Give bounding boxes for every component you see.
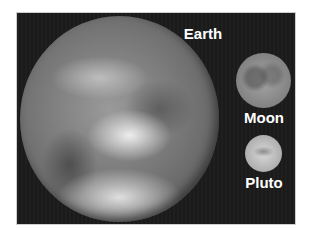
pluto-image — [245, 135, 282, 172]
earth-image — [20, 16, 219, 222]
earth-label: Earth — [184, 26, 222, 41]
pluto-label: Pluto — [245, 175, 283, 190]
moon-label: Moon — [244, 110, 284, 125]
moon-image — [236, 53, 291, 108]
